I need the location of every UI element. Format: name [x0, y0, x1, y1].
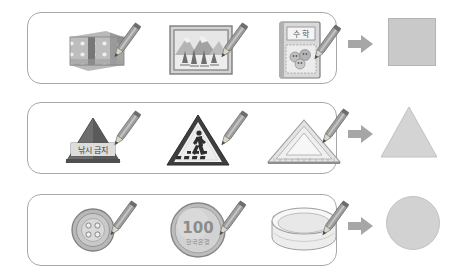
gift-box-graphic — [66, 27, 128, 73]
framed-picture-graphic — [169, 25, 233, 75]
worksheet-sheet: polka dot gift box — [0, 0, 463, 275]
item-crosswalk-sign[interactable]: pedestrian crossing sign — [163, 103, 263, 175]
result-label: triangle — [0, 94, 1, 95]
item-label: triangular set square ruler — [266, 103, 267, 104]
coin-graphic: 100 한국은행 — [169, 201, 227, 259]
item-framed-picture[interactable]: framed mountain picture — [163, 13, 263, 85]
arrow-right-icon — [348, 216, 374, 236]
svg-text:100: 100 — [182, 219, 213, 237]
svg-text:수 학: 수 학 — [293, 29, 311, 39]
group-box-triangle: 낚시 금지 낚시 금지 — [27, 102, 337, 174]
item-text: 낚시 금지 — [58, 103, 59, 104]
item-coin-100-won[interactable]: 100 한국은행 100 — [163, 195, 263, 267]
result-shape-circle — [386, 196, 440, 250]
svg-text:한국은행: 한국은행 — [186, 238, 210, 246]
item-label: polka dot gift box — [58, 13, 59, 14]
item-text: 수 학 — [266, 13, 267, 14]
group-box-circle: four hole sewing button 100 한국은행 — [27, 194, 337, 266]
math-textbook-graphic: 수 학 — [278, 21, 322, 79]
item-label: framed mountain picture — [163, 13, 164, 14]
pyramid-sign-graphic: 낚시 금지 — [62, 115, 124, 167]
item-text: 100 — [163, 195, 164, 196]
item-label: pedestrian crossing sign — [163, 103, 164, 104]
set-square-graphic — [266, 117, 344, 165]
arrow-right-icon — [348, 124, 374, 144]
sewing-button-graphic — [70, 207, 116, 253]
result-label: square — [0, 4, 1, 5]
row-square: polka dot gift box — [0, 4, 463, 92]
svg-text:낚시 금지: 낚시 금지 — [78, 146, 109, 155]
item-sewing-button[interactable]: four hole sewing button — [58, 195, 158, 267]
item-label: round shallow bowl — [266, 195, 267, 196]
item-label: four hole sewing button — [58, 195, 59, 196]
result-shape-square — [388, 18, 436, 66]
row-circle: four hole sewing button 100 한국은행 — [0, 186, 463, 274]
crosswalk-sign-graphic — [165, 113, 231, 169]
row-triangle: 낚시 금지 낚시 금지 — [0, 94, 463, 182]
item-pyramid-sign[interactable]: 낚시 금지 낚시 금지 — [58, 103, 158, 175]
arrow-right-icon — [348, 34, 374, 54]
result-shape-triangle — [380, 106, 438, 158]
round-bowl-graphic — [268, 207, 340, 255]
result-label: circle — [0, 186, 1, 187]
item-gift-box[interactable]: polka dot gift box — [58, 13, 158, 85]
group-box-square: polka dot gift box — [27, 12, 337, 84]
